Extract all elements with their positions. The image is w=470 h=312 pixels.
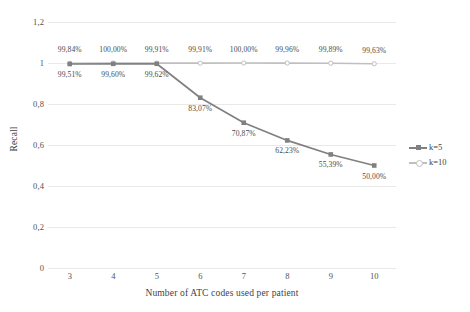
legend-item-k5[interactable]: k=5 bbox=[409, 140, 467, 155]
x-axis-tick-label: 7 bbox=[242, 271, 246, 281]
chart-legend: k=5k=10 bbox=[409, 140, 467, 170]
data-point-marker bbox=[198, 95, 203, 100]
data-point-label: 50,00% bbox=[362, 173, 386, 181]
data-point-marker bbox=[329, 61, 333, 65]
data-point-marker bbox=[241, 120, 246, 125]
x-axis-title: Number of ATC codes used per patient bbox=[48, 288, 396, 298]
y-axis-tick-label: 0 bbox=[4, 264, 44, 273]
data-point-marker bbox=[285, 138, 290, 143]
series-layer bbox=[48, 22, 396, 268]
x-axis-tick-label: 5 bbox=[155, 271, 159, 281]
x-axis-tick-label: 8 bbox=[285, 271, 289, 281]
legend-item-k10[interactable]: k=10 bbox=[409, 155, 467, 170]
data-point-label: 99,63% bbox=[362, 47, 386, 55]
data-point-marker bbox=[198, 61, 202, 65]
x-axis-tick-label: 6 bbox=[198, 271, 202, 281]
data-point-label: 99,89% bbox=[319, 46, 343, 54]
gridline bbox=[48, 268, 396, 269]
y-axis-tick-label: 0,4 bbox=[4, 182, 44, 191]
data-point-label: 62,23% bbox=[275, 147, 299, 155]
data-point-marker bbox=[372, 163, 377, 168]
data-point-label: 99,84% bbox=[58, 46, 82, 54]
x-axis-tick-labels: 345678910 bbox=[48, 271, 396, 285]
y-axis-tick-label: 0,8 bbox=[4, 100, 44, 109]
data-point-marker bbox=[242, 61, 246, 65]
data-point-label: 99,51% bbox=[58, 71, 82, 79]
data-point-marker bbox=[372, 62, 376, 66]
data-point-label: 100,00% bbox=[99, 46, 127, 54]
series-line-k5 bbox=[70, 64, 375, 166]
data-point-label: 55,39% bbox=[319, 161, 343, 169]
x-axis-tick-label: 3 bbox=[68, 271, 72, 281]
data-point-marker bbox=[328, 152, 333, 157]
data-point-label: 99,91% bbox=[145, 46, 169, 54]
x-axis-tick-label: 10 bbox=[370, 271, 379, 281]
data-point-label: 99,62% bbox=[145, 71, 169, 79]
data-point-label: 99,60% bbox=[101, 71, 125, 79]
y-axis-tick-labels: 1,210,80,60,40,20 bbox=[0, 22, 44, 268]
data-point-marker bbox=[154, 61, 159, 66]
y-axis-tick-label: 1,2 bbox=[4, 18, 44, 27]
legend-item-label: k=10 bbox=[429, 158, 447, 167]
x-axis-tick-label: 9 bbox=[329, 271, 333, 281]
data-point-label: 70,87% bbox=[232, 130, 256, 138]
data-point-label: 99,96% bbox=[275, 46, 299, 54]
y-axis-title: Recall bbox=[9, 109, 19, 169]
data-point-label: 99,91% bbox=[188, 46, 212, 54]
recall-line-chart: 1,210,80,60,40,20 Recall 99,51%99,60%99,… bbox=[0, 0, 470, 312]
y-axis-tick-label: 1 bbox=[4, 59, 44, 68]
plot-area: 99,51%99,60%99,62%83,07%70,87%62,23%55,3… bbox=[48, 22, 396, 268]
data-point-marker bbox=[285, 61, 289, 65]
y-axis-tick-label: 0,2 bbox=[4, 223, 44, 232]
x-axis-tick-label: 4 bbox=[111, 271, 115, 281]
legend-swatch-icon bbox=[409, 143, 427, 152]
legend-swatch-icon bbox=[409, 158, 427, 167]
data-point-marker bbox=[111, 62, 116, 67]
data-point-marker bbox=[67, 62, 72, 67]
legend-item-label: k=5 bbox=[429, 143, 442, 152]
data-point-label: 83,07% bbox=[188, 105, 212, 113]
data-point-label: 100,00% bbox=[230, 46, 258, 54]
